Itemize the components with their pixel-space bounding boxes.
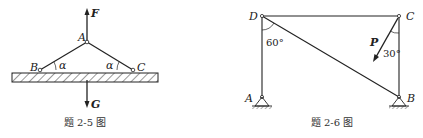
caption-2-6: 题 2-6 图 [311, 117, 353, 128]
hinge-b [38, 68, 42, 72]
label-alpha-left: α [59, 59, 67, 72]
label-b2: B [406, 92, 415, 105]
angle-arc-left [54, 62, 56, 70]
label-d: D [248, 10, 258, 23]
label-c: C [137, 61, 146, 74]
diagrams-canvas: F A B C α α G 题 2-5 图 D C [0, 0, 423, 138]
label-a: A [77, 31, 86, 44]
label-a2: A [244, 92, 253, 105]
label-angle-30: 30° [383, 48, 401, 59]
angle-arc-right [117, 62, 119, 70]
label-c2: C [406, 10, 415, 23]
angle-arc-d [262, 23, 274, 30]
label-f: F [90, 7, 100, 20]
figure-2-5: F A B C α α G 题 2-5 图 [12, 7, 158, 128]
weight-g-arrow-icon [85, 80, 90, 108]
label-b: B [29, 61, 38, 74]
figure-2-6: D C 60° 30° P A B 题 2-6 图 [244, 10, 415, 128]
beam [12, 73, 158, 82]
pin-support-b [389, 95, 409, 109]
hinge-c2 [397, 14, 400, 17]
pin-support-a [252, 95, 272, 109]
hinge-d [260, 14, 263, 17]
member-db [262, 16, 399, 97]
label-angle-60: 60° [266, 37, 284, 48]
label-g: G [91, 98, 100, 111]
hinge-c [131, 68, 135, 72]
label-alpha-right: α [106, 59, 114, 72]
angle-arc-c [390, 31, 399, 33]
caption-2-5: 题 2-5 图 [64, 117, 106, 128]
label-p: P [369, 36, 379, 49]
